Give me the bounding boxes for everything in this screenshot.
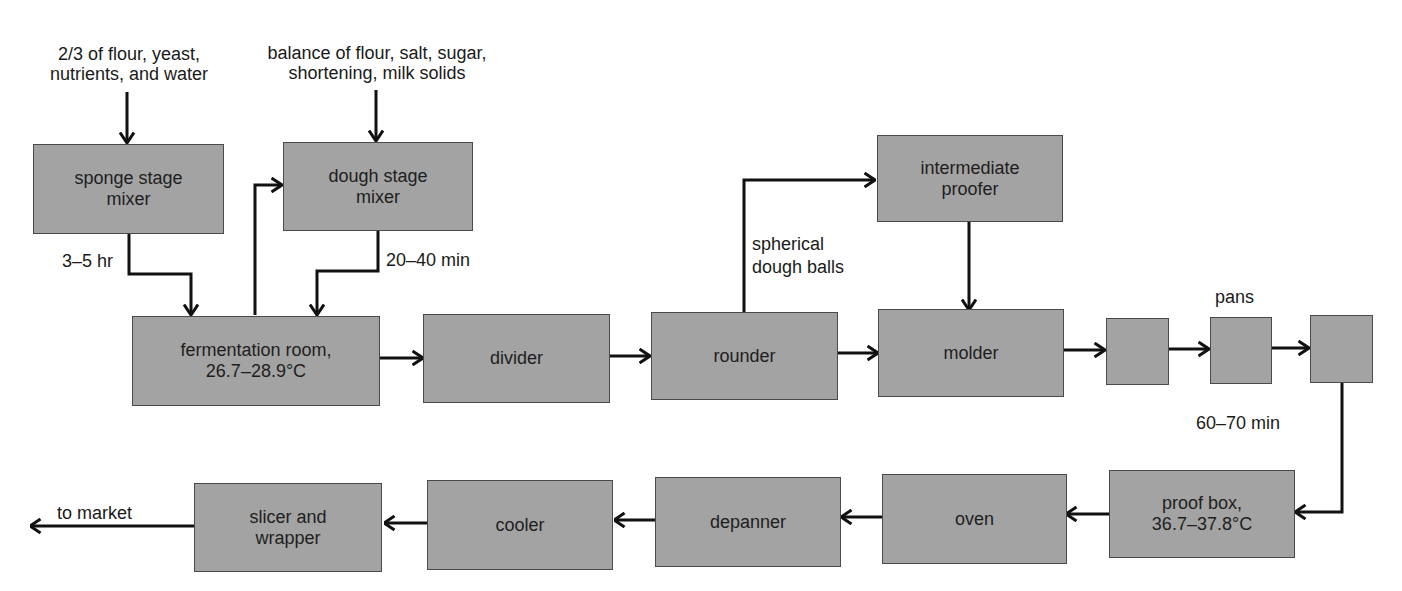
- box-label: proof box, 36.7–37.8°C: [1152, 493, 1252, 535]
- label-sponge-inputs: 2/3 of flour, yeast, nutrients, and wate…: [34, 44, 224, 84]
- box-proof-box: proof box, 36.7–37.8°C: [1109, 470, 1295, 558]
- box-intermediate-proofer: intermediate proofer: [877, 135, 1063, 222]
- box-label: divider: [490, 348, 543, 369]
- box-label: oven: [955, 509, 994, 530]
- box-pans: [1210, 317, 1272, 384]
- box-depanner: depanner: [655, 477, 841, 567]
- label-proof-time: 60–70 min: [1196, 413, 1280, 433]
- arrow-dough-mixer-to-fermentation: [317, 230, 378, 315]
- arrow-sponge-to-fermentation: [129, 234, 191, 315]
- box-label: cooler: [495, 515, 544, 536]
- box-oven: oven: [882, 474, 1067, 564]
- label-dough-time: 20–40 min: [386, 250, 470, 270]
- box-label: rounder: [713, 346, 775, 367]
- box-label: intermediate proofer: [920, 158, 1019, 200]
- box-unlabeled-2: [1310, 315, 1373, 383]
- box-dough-stage-mixer: dough stage mixer: [283, 142, 473, 231]
- box-label: molder: [943, 343, 998, 364]
- box-label: depanner: [710, 512, 786, 533]
- box-label: fermentation room, 26.7–28.9°C: [180, 340, 331, 382]
- arrow-box2-to-proofbox: [1295, 383, 1342, 512]
- box-cooler: cooler: [427, 480, 613, 570]
- box-molder: molder: [878, 309, 1064, 397]
- box-divider: divider: [423, 314, 610, 403]
- box-sponge-stage-mixer: sponge stage mixer: [33, 144, 224, 234]
- box-rounder: rounder: [651, 312, 838, 400]
- label-to-market: to market: [57, 503, 132, 523]
- box-label: dough stage mixer: [328, 166, 427, 208]
- box-label: sponge stage mixer: [74, 168, 182, 210]
- box-slicer-and-wrapper: slicer and wrapper: [194, 483, 382, 572]
- label-pans: pans: [1215, 287, 1254, 307]
- box-fermentation-room: fermentation room, 26.7–28.9°C: [132, 316, 380, 406]
- label-spherical-dough-balls: spherical dough balls: [752, 233, 844, 279]
- arrow-fermentation-to-dough-mixer: [255, 185, 282, 315]
- label-dough-inputs: balance of flour, salt, sugar, shortenin…: [246, 43, 508, 83]
- label-sponge-time: 3–5 hr: [62, 251, 113, 271]
- box-label: slicer and wrapper: [249, 507, 326, 549]
- box-unlabeled-1: [1106, 318, 1169, 385]
